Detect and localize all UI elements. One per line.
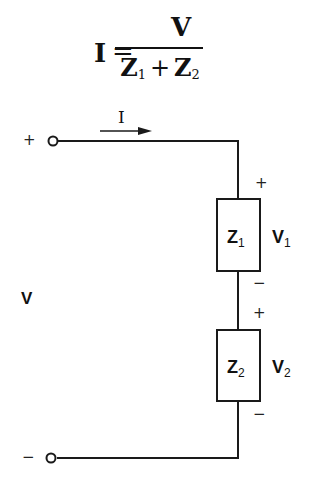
- top-terminal-sign: +: [23, 133, 36, 148]
- bottom-terminal-icon: [47, 454, 56, 463]
- current-label: I: [118, 109, 125, 126]
- source-voltage-label: V: [21, 290, 32, 307]
- v2-label: V2: [272, 358, 291, 379]
- z1-plus-sign: +: [255, 176, 268, 191]
- z2-label: Z2: [227, 358, 245, 379]
- top-terminal-icon: [49, 137, 58, 146]
- bottom-wire: [57, 401, 238, 458]
- z1-minus-sign: −: [253, 276, 266, 291]
- current-arrow-icon: [138, 127, 152, 135]
- z2-minus-sign: −: [253, 407, 266, 422]
- z1-label: Z1: [227, 228, 245, 249]
- bottom-terminal-sign: −: [22, 450, 35, 465]
- v1-label: V1: [272, 228, 291, 249]
- z2-plus-sign: +: [253, 306, 266, 321]
- top-wire: [58, 141, 238, 199]
